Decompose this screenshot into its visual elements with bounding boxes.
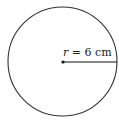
radius-equals: = <box>68 46 84 59</box>
circle-diagram: r = 6 cm <box>0 0 119 125</box>
radius-label: r = 6 cm <box>63 46 112 59</box>
radius-unit: cm <box>91 46 112 59</box>
radius-value: 6 <box>84 46 91 59</box>
